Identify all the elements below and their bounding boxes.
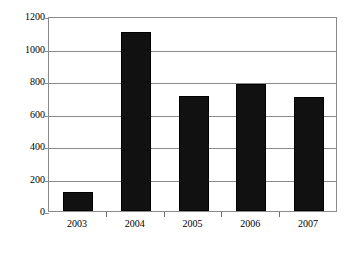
y-axis-tick-mark (45, 51, 49, 52)
y-axis: 020040060080010001200 (0, 17, 45, 212)
y-axis-tick-label: 1000 (3, 45, 45, 55)
y-axis-tick-mark (45, 148, 49, 149)
y-axis-tick-mark (45, 18, 49, 19)
x-axis-tick-label-2003: 2003 (67, 218, 87, 230)
y-axis-tick-label: 0 (3, 207, 45, 217)
y-axis-tick-label: 200 (3, 175, 45, 185)
bar-2007 (294, 97, 324, 211)
x-axis: 20032004200520062007 (48, 218, 337, 238)
y-axis-tick-mark (45, 83, 49, 84)
gridline (49, 51, 336, 52)
y-axis-tick-label: 1200 (3, 12, 45, 22)
x-axis-tick-label-2006: 2006 (240, 218, 260, 230)
y-axis-tick-label: 800 (3, 77, 45, 87)
y-axis-tick-mark (45, 181, 49, 182)
bar-2005 (179, 96, 209, 211)
x-axis-tick-mark (164, 212, 165, 217)
x-axis-tick-label-2005: 2005 (183, 218, 203, 230)
bar-2004 (121, 32, 151, 211)
x-axis-tick-mark (106, 212, 107, 217)
bar-2006 (236, 84, 266, 211)
bar-chart: 020040060080010001200 200320042005200620… (0, 0, 352, 254)
y-axis-tick-label: 600 (3, 110, 45, 120)
x-axis-tick-mark (221, 212, 222, 217)
plot-area (48, 17, 337, 212)
y-axis-tick-label: 400 (3, 142, 45, 152)
y-axis-tick-mark (45, 116, 49, 117)
x-axis-tick-label-2007: 2007 (298, 218, 318, 230)
bar-2003 (63, 192, 93, 212)
gridline (49, 83, 336, 84)
x-axis-tick-mark (279, 212, 280, 217)
x-axis-tick-label-2004: 2004 (125, 218, 145, 230)
